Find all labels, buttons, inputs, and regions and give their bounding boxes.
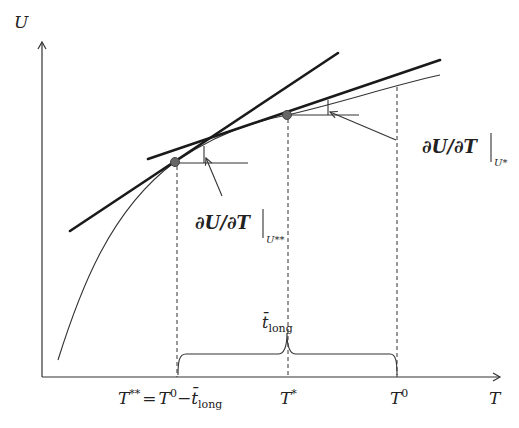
t-double-star-sup: ** [129,387,141,400]
tick-label-t-star: T* [280,387,297,408]
t-double-star-t0-sup: 0 [170,387,177,400]
t-star-sup: * [291,387,297,400]
slope-label-u-star-text: ∂U/∂T [422,136,479,157]
tangent-line-steep [70,53,338,231]
t-double-star-tbar-sub: long [198,398,222,411]
t-double-star-eq: = [142,388,156,408]
tangent-line-shallow [148,60,440,159]
t-double-star-minus: − [177,388,191,408]
slope-label-u-star: ∂U/∂T [422,136,479,157]
brace-label-sub: long [268,322,292,335]
t-zero-sup: 0 [401,387,408,400]
slope-label-u-double-star-sub: U** [266,234,284,245]
tick-label-t-zero: T0 [390,387,408,408]
brace-label: t̄long [262,311,293,335]
point-t-star [283,111,292,120]
slope-label-u-star-sub: U* [494,157,507,168]
slope-label-u-double-star: ∂U/∂T [195,212,252,233]
y-axis-label: U [14,12,29,32]
slope-label-u-double-star-text: ∂U/∂T [195,212,252,233]
tick-label-t-double-star: T**=T0−t̄long [118,386,222,411]
pointer-arrow-u-star [330,112,396,140]
pointer-arrow-u-double-star [206,158,222,196]
x-axis-label: T [489,388,502,408]
point-t-double-star [171,158,180,167]
utility-diagram: U T t̄long ∂U/∂T U** ∂U/∂T U* T**=T0−t̄l… [0,0,519,428]
